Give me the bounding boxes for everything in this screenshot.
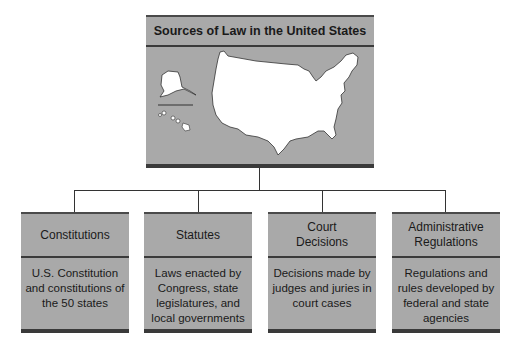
connector-drop-court-decisions	[322, 190, 323, 212]
source-description: Decisions made by judges and juries in c…	[268, 258, 376, 311]
header-box-bottom-rule	[146, 164, 374, 168]
source-title: Court Decisions	[268, 214, 376, 258]
connector-drop-constitutions	[74, 190, 75, 212]
source-box-bottom-rule	[268, 329, 376, 333]
source-description: Laws enacted by Congress, state legislat…	[144, 258, 252, 326]
source-box-court-decisions: Court Decisions Decisions made by judges…	[268, 212, 376, 333]
sources-of-law-header-box: Sources of Law in the United States	[146, 15, 374, 168]
source-box-bottom-rule	[144, 329, 252, 333]
source-box-constitutions: Constitutions U.S. Constitution and cons…	[21, 212, 129, 333]
connector-drop-statutes	[198, 190, 199, 212]
connector-drop-administrative-regulations	[445, 190, 446, 212]
source-box-administrative-regulations: Administrative Regulations Regulations a…	[392, 212, 500, 333]
source-title: Administrative Regulations	[392, 214, 500, 258]
source-box-statutes: Statutes Laws enacted by Congress, state…	[144, 212, 252, 333]
connector-horizontal	[74, 190, 446, 191]
source-title: Constitutions	[21, 214, 129, 258]
source-description: U.S. Constitution and constitutions of t…	[21, 258, 129, 311]
source-box-bottom-rule	[21, 329, 129, 333]
source-description: Regulations and rules developed by feder…	[392, 258, 500, 326]
connector-trunk	[259, 168, 260, 190]
source-title: Statutes	[144, 214, 252, 258]
us-map-icon	[146, 47, 374, 166]
source-box-bottom-rule	[392, 329, 500, 333]
diagram-title: Sources of Law in the United States	[146, 17, 374, 47]
